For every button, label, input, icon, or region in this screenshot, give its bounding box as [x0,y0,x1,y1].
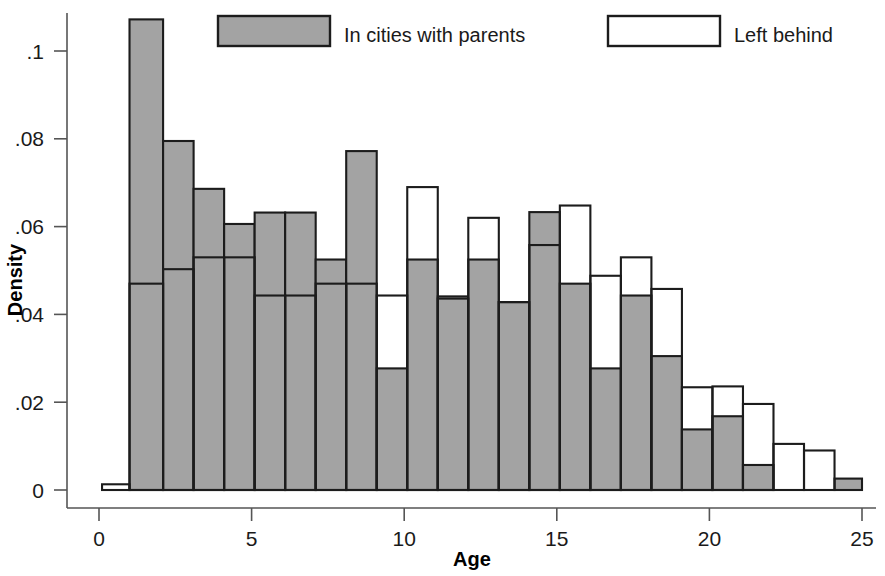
histogram-bar [621,296,652,490]
series-1-bars [130,19,862,490]
histogram-bar [438,296,469,490]
legend-item-1: In cities with parents [218,16,525,46]
histogram-bar [255,213,286,490]
histogram-bar [285,213,316,490]
histogram-bar [316,260,347,490]
histogram-bar [590,368,621,490]
x-tick-label: 5 [246,527,258,550]
bars-layer [102,19,862,490]
histogram-bar [835,479,862,490]
histogram-bar [529,212,560,490]
histogram-bar [377,368,408,490]
histogram-bar [468,260,499,490]
histogram-bar [130,19,164,490]
histogram-bar [773,444,804,490]
legend-label: Left behind [734,24,833,46]
legend-label: In cities with parents [344,24,525,46]
histogram-bar [102,484,129,490]
x-tick-label: 15 [545,527,568,550]
legend-swatch [608,16,720,46]
y-tick-label: .06 [15,215,44,238]
x-tick-label: 25 [850,527,873,550]
y-tick-label: 0 [32,479,44,502]
x-tick-label: 20 [698,527,721,550]
legend-layer: In cities with parentsLeft behind [218,16,833,46]
histogram-bar [163,141,194,490]
legend-item-2: Left behind [608,16,833,46]
x-tick-label: 10 [393,527,416,550]
histogram-bar [682,429,713,490]
histogram-bar [407,260,438,490]
y-tick-label: .1 [26,40,44,63]
histogram-bar [712,416,743,490]
histogram-bar [804,450,835,490]
y-tick-label: .08 [15,127,44,150]
histogram-figure: 0.02.04.06.08.10510152025 In cities with… [0,0,885,576]
y-axis-title: Density [4,243,26,316]
histogram-bar [743,465,774,490]
x-tick-label: 0 [93,527,105,550]
histogram-bar [194,189,225,490]
histogram-bar [560,284,591,490]
legend-swatch [218,16,330,46]
chart-canvas: 0.02.04.06.08.10510152025 In cities with… [0,0,885,576]
histogram-bar [499,302,530,490]
histogram-bar [651,356,682,490]
y-tick-label: .02 [15,391,44,414]
histogram-bar [224,224,255,490]
x-axis-title: Age [453,548,491,570]
histogram-bar [346,151,377,490]
